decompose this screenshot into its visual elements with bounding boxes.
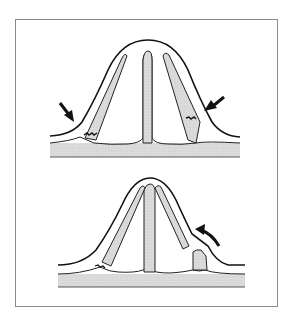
bottom-base <box>58 274 245 287</box>
top-panel <box>50 40 240 157</box>
bottom-left-projection <box>102 186 145 266</box>
bottom-right-stump <box>193 250 207 270</box>
top-right-projection <box>163 53 200 143</box>
top-left-projection <box>85 54 127 140</box>
arrow-left-icon <box>60 103 74 122</box>
arrow-right-icon <box>204 97 224 111</box>
diagram <box>0 0 297 321</box>
curved-arrow-icon <box>195 224 219 246</box>
top-center-projection <box>143 51 152 143</box>
bottom-center-projection <box>144 184 155 272</box>
bottom-panel <box>58 178 245 287</box>
top-base <box>50 143 240 157</box>
